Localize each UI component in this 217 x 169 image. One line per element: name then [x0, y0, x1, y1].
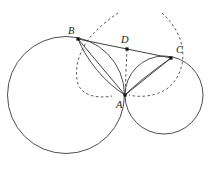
dashed-arc-left — [76, 13, 118, 97]
vertex-point-b — [76, 37, 79, 40]
vertex-label-b: B — [68, 25, 75, 36]
vertex-point-c — [169, 56, 172, 59]
segment-d-c — [127, 49, 171, 58]
small-circle — [125, 56, 203, 134]
vertex-label-d: D — [120, 34, 129, 45]
segment-c-a — [125, 58, 171, 95]
vertex-point-d — [125, 47, 128, 50]
vertex-label-a: A — [115, 99, 123, 110]
vertex-point-a — [123, 93, 126, 96]
geometry-figure: B D C A — [0, 0, 217, 169]
geometry-canvas: B D C A — [0, 0, 217, 169]
vertex-label-c: C — [176, 44, 184, 55]
large-circle — [8, 37, 125, 154]
